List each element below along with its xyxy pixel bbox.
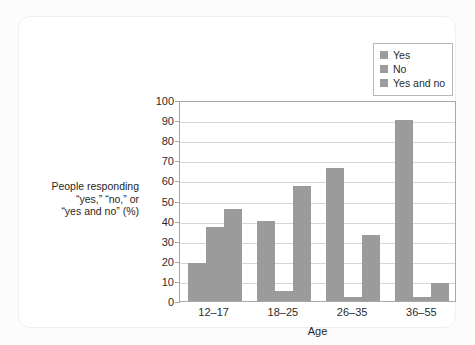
bar [275,291,293,301]
y-axis-title-line-1: People responding [47,180,139,193]
bar [431,283,449,301]
chart-legend: Yes No Yes and no [373,43,453,96]
legend-item-yes-and-no[interactable]: Yes and no [380,76,445,90]
legend-swatch-icon-no [380,65,388,73]
y-axis-tick-mark [175,302,180,303]
y-axis-tick-label: 80 [144,136,174,147]
x-axis-ticks: 12–1718–2526–3536–55 [179,306,456,322]
legend-swatch-icon-yes-and-no [380,79,388,87]
bar [257,221,275,301]
y-axis-tick-label: 30 [144,236,174,247]
y-axis-tick-label: 90 [144,116,174,127]
bar [413,297,431,301]
legend-label-yes: Yes [393,48,410,62]
y-axis-tick-label: 60 [144,176,174,187]
x-axis-title: Age [179,325,456,337]
bar [395,120,413,301]
x-axis-tick-label: 12–17 [198,306,229,318]
bar [188,263,206,301]
bar [344,297,362,301]
legend-label-no: No [393,62,406,76]
legend-item-no[interactable]: No [380,62,445,76]
chart-card: Yes No Yes and no People responding “yes… [18,16,456,328]
y-axis-ticks: 0102030405060708090100 [142,101,174,302]
legend-item-yes[interactable]: Yes [380,48,445,62]
y-axis-tick-label: 10 [144,276,174,287]
y-axis-title-line-2: “yes,” “no,” or [47,193,139,206]
plot-area [179,101,456,302]
x-axis-tick-label: 26–35 [337,306,368,318]
y-axis-tick-label: 50 [144,196,174,207]
legend-swatch-icon-yes [380,51,388,59]
bar-series-container [180,102,455,301]
y-axis-tick-label: 40 [144,216,174,227]
y-axis-tick-label: 100 [144,96,174,107]
bar [224,209,242,301]
y-axis-tick-label: 70 [144,156,174,167]
bar [293,186,311,301]
x-axis-tick-label: 36–55 [406,306,437,318]
y-axis-title: People responding “yes,” “no,” or “yes a… [47,180,139,218]
bar [326,168,344,301]
page-root: Yes No Yes and no People responding “yes… [0,0,475,345]
y-axis-title-line-3: “yes and no” (%) [47,205,139,218]
bar [206,227,224,301]
y-axis-tick-label: 0 [144,297,174,308]
y-axis-tick-label: 20 [144,256,174,267]
bar [362,235,380,301]
x-axis-tick-label: 18–25 [268,306,299,318]
legend-label-yes-and-no: Yes and no [393,76,445,90]
